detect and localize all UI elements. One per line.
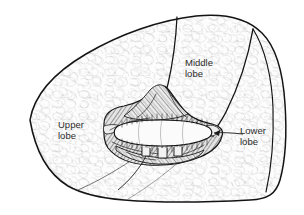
upper-lobe-label-line2: lobe — [58, 130, 76, 141]
lung-illustration: Upper lobe Middle lobe Lower lobe — [0, 0, 304, 215]
pulmonary-vessels — [142, 147, 182, 158]
middle-lobe-label-line2: lobe — [185, 68, 203, 79]
lower-lobe-label-line1: Lower — [240, 125, 266, 136]
middle-lobe-label-line1: Middle — [185, 57, 213, 68]
upper-lobe-label-line1: Upper — [58, 119, 84, 130]
lung-diagram-figure: Upper lobe Middle lobe Lower lobe — [0, 0, 304, 215]
lower-lobe-label-line2: lobe — [240, 136, 258, 147]
